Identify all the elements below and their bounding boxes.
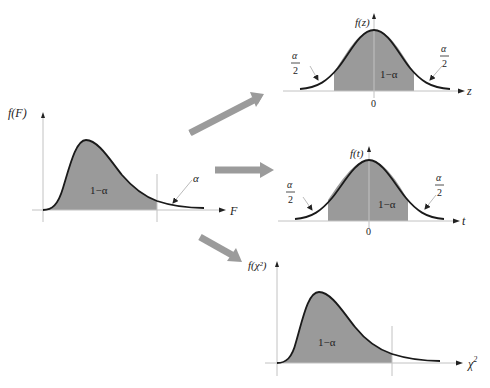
t-zero-label: 0: [366, 226, 371, 237]
distribution-diagram: f(F) F 1−α α f(z) z 0: [0, 0, 490, 388]
f-y-axis-arrow-icon: [41, 112, 45, 118]
f-x-label: F: [229, 204, 238, 218]
t-shaded-area: [328, 160, 408, 221]
t-center-label: 1−α: [378, 198, 396, 210]
f-x-axis-arrow-icon: [219, 208, 226, 213]
chisq-center-label: 1−α: [318, 336, 336, 348]
t-right-pointer: [425, 195, 436, 209]
t-y-label: f(t): [350, 147, 364, 160]
z-y-label: f(z): [355, 16, 370, 29]
z-x-axis-arrow-icon: [458, 89, 465, 94]
connector-arrows: [189, 92, 274, 262]
f-center-label: 1−α: [90, 184, 108, 196]
f-shaded-area: [43, 140, 157, 210]
t-x-axis-arrow-icon: [453, 219, 460, 224]
t-right-tail-numerator: α: [436, 172, 442, 183]
z-y-axis-arrow-icon: [372, 13, 376, 19]
z-left-tail-denominator: 2: [293, 65, 298, 76]
t-left-tail-denominator: 2: [288, 194, 293, 205]
f-tail-label: α: [193, 172, 199, 184]
t-right-tail-denominator: 2: [437, 187, 442, 198]
z-center-label: 1−α: [380, 68, 398, 80]
z-right-tail-numerator: α: [441, 43, 447, 54]
t-x-label: t: [462, 214, 466, 228]
z-left-tail-numerator: α: [292, 50, 298, 61]
z-distribution-plot: f(z) z 0 1−α α 2 α 2: [283, 13, 472, 109]
chisq-x-label: χ2: [467, 355, 477, 371]
chisq-x-axis-arrow-icon: [456, 361, 463, 366]
t-left-tail-numerator: α: [287, 179, 293, 190]
arrow-to-t-icon: [215, 162, 274, 178]
chisq-shaded-area: [277, 292, 392, 363]
arrow-to-z-icon: [189, 92, 264, 135]
f-y-label: f(F): [8, 106, 27, 120]
chisq-y-label: f(χ²): [248, 259, 267, 272]
chisq-x-label-sup: 2: [473, 355, 477, 364]
chisq-distribution-plot: f(χ²) χ2 1−α: [248, 259, 477, 376]
t-left-pointer: [303, 197, 312, 210]
z-x-label: z: [466, 84, 472, 98]
z-right-tail-denominator: 2: [442, 58, 447, 69]
z-right-pointer: [430, 66, 442, 80]
chisq-y-axis-arrow-icon: [275, 261, 279, 267]
f-alpha-pointer: [173, 180, 192, 203]
t-y-axis-arrow-icon: [367, 146, 371, 152]
z-zero-label: 0: [371, 98, 376, 109]
z-left-pointer: [310, 66, 318, 80]
arrow-to-chisq-icon: [200, 237, 242, 262]
t-distribution-plot: f(t) t 0 1−α α 2 α 2: [278, 146, 466, 237]
